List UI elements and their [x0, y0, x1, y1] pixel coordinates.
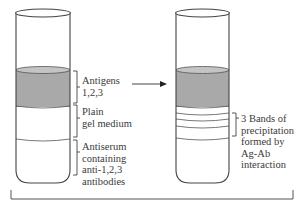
bracket-bands — [232, 113, 239, 136]
tube-rim — [16, 9, 71, 17]
antigen-layer-top — [176, 67, 229, 74]
label-line: Antiserum — [82, 141, 126, 153]
tube-rim — [176, 9, 230, 17]
arrow-head — [160, 81, 167, 87]
antigen-layer — [176, 70, 229, 107]
diagram-canvas — [0, 0, 301, 215]
antigen-layer — [16, 70, 70, 107]
bracket-gel — [73, 105, 80, 137]
label-line: Ag-Ab — [241, 148, 294, 160]
right-test-tube — [176, 9, 230, 183]
label-precipitation-bands: 3 Bands of precipitation formed by Ag-Ab… — [241, 113, 294, 171]
label-line: Plain — [82, 106, 132, 118]
gel-antiserum-boundary — [176, 138, 229, 140]
gel-antiserum-boundary — [16, 139, 70, 141]
grouping-bracket — [11, 190, 293, 199]
label-line: 3 Bands of — [241, 113, 294, 125]
label-line: interaction — [241, 159, 294, 171]
precipitation-band-3 — [176, 126, 229, 128]
arrow — [132, 81, 167, 87]
bracket-antiserum — [73, 140, 80, 175]
label-antigens: Antigens 1,2,3 — [82, 75, 120, 98]
label-line: gel medium — [82, 118, 132, 130]
label-line: formed by — [241, 136, 294, 148]
label-line: Antigens — [82, 75, 120, 87]
precipitation-band-2 — [176, 119, 229, 121]
label-line: containing — [82, 153, 126, 165]
antigen-layer-top — [16, 67, 70, 74]
label-plain-gel: Plain gel medium — [82, 106, 132, 129]
label-line: precipitation — [241, 125, 294, 137]
label-antiserum: Antiserum containing anti-1,2,3 antibodi… — [82, 141, 126, 187]
left-test-tube — [16, 9, 71, 183]
precipitation-band-1 — [176, 113, 229, 115]
label-line: antibodies — [82, 176, 126, 188]
left-brackets — [73, 71, 80, 175]
label-line: anti-1,2,3 — [82, 164, 126, 176]
bracket-antigens — [73, 71, 80, 103]
label-line: 1,2,3 — [82, 87, 120, 99]
